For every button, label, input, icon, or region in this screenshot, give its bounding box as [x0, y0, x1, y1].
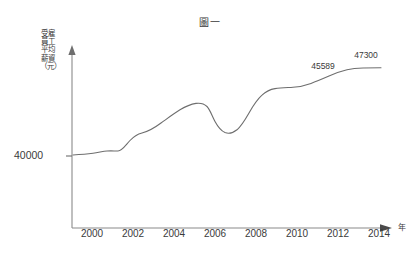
x-axis-unit-label: 年 — [398, 221, 406, 232]
data-annotation-45589: 45589 — [300, 61, 346, 71]
figure-container: 圖一 受雇員工平均薪資（元） 40000 2000 2002 2004 2006… — [0, 0, 419, 259]
x-tick-label-2004: 2004 — [157, 228, 191, 239]
x-tick-label-2000: 2000 — [75, 228, 109, 239]
data-annotation-47300: 47300 — [343, 50, 389, 60]
x-tick-label-2014: 2014 — [362, 228, 396, 239]
axes-group — [66, 45, 392, 232]
x-tick-label-2002: 2002 — [116, 228, 150, 239]
data-line-series — [73, 68, 381, 155]
y-axis-arrowhead — [68, 45, 75, 55]
x-tick-label-2010: 2010 — [280, 228, 314, 239]
x-tick-label-2008: 2008 — [239, 228, 273, 239]
chart-plot-area — [0, 0, 419, 259]
x-tick-label-2012: 2012 — [321, 228, 355, 239]
x-tick-label-2006: 2006 — [198, 228, 232, 239]
